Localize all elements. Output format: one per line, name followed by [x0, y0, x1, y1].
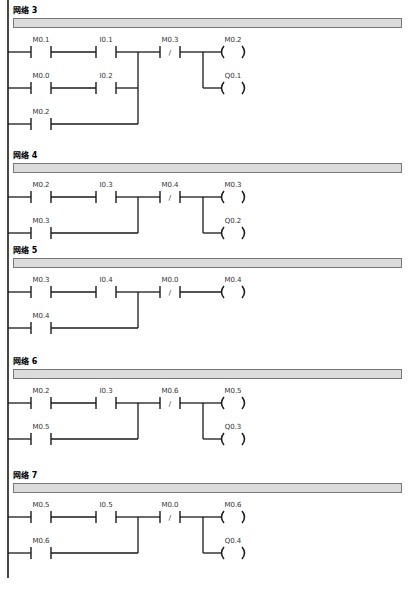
coil-address-label: M0.2 — [224, 36, 241, 44]
coil-address-label: Q0.1 — [225, 72, 242, 80]
contact-address-label: M0.3 — [161, 36, 178, 44]
coil-right-paren — [242, 433, 245, 445]
coil-left-paren — [222, 433, 225, 445]
contact-address-label: M0.6 — [32, 537, 50, 545]
contact-address-label: M0.3 — [32, 217, 49, 225]
coil-address-label: M0.6 — [224, 501, 242, 509]
coil-address-label: Q0.3 — [225, 423, 242, 431]
coil-left-paren — [222, 191, 225, 203]
nc-slash-icon: / — [169, 400, 172, 408]
coil-right-paren — [242, 547, 245, 559]
contact-address-label: I0.2 — [99, 72, 112, 80]
coil-left-paren — [222, 547, 225, 559]
contact-address-label: M0.3 — [32, 276, 49, 284]
coil-left-paren — [222, 227, 225, 239]
coil-left-paren — [222, 397, 225, 409]
contact-address-label: M0.4 — [32, 312, 50, 320]
coil-right-paren — [242, 286, 245, 298]
coil-address-label: Q0.4 — [225, 537, 242, 545]
coil-left-paren — [222, 82, 225, 94]
coil-right-paren — [242, 191, 245, 203]
nc-slash-icon: / — [169, 514, 172, 522]
coil-left-paren — [222, 46, 225, 58]
coil-left-paren — [222, 511, 225, 523]
contact-address-label: I0.3 — [99, 387, 112, 395]
coil-right-paren — [242, 46, 245, 58]
nc-slash-icon: / — [169, 194, 172, 202]
coil-right-paren — [242, 397, 245, 409]
contact-address-label: I0.5 — [99, 501, 112, 509]
coil-right-paren — [242, 82, 245, 94]
coil-address-label: Q0.2 — [225, 217, 242, 225]
contact-address-label: M0.2 — [32, 108, 49, 116]
coil-right-paren — [242, 227, 245, 239]
contact-address-label: M0.4 — [161, 181, 179, 189]
contact-address-label: M0.1 — [32, 36, 49, 44]
ladder-canvas: M0.1I0.1M0.0I0.2M0.2/M0.3M0.2Q0.1M0.2I0.… — [0, 0, 409, 590]
coil-address-label: M0.5 — [224, 387, 241, 395]
nc-slash-icon: / — [169, 289, 172, 297]
contact-address-label: I0.3 — [99, 181, 112, 189]
contact-address-label: I0.1 — [99, 36, 112, 44]
contact-address-label: M0.0 — [161, 501, 178, 509]
coil-address-label: M0.3 — [224, 181, 241, 189]
contact-address-label: M0.0 — [32, 72, 49, 80]
contact-address-label: M0.5 — [32, 501, 49, 509]
contact-address-label: I0.4 — [99, 276, 113, 284]
coil-left-paren — [222, 286, 225, 298]
contact-address-label: M0.0 — [161, 276, 178, 284]
coil-right-paren — [242, 511, 245, 523]
coil-address-label: M0.4 — [224, 276, 242, 284]
contact-address-label: M0.2 — [32, 387, 49, 395]
contact-address-label: M0.5 — [32, 423, 49, 431]
contact-address-label: M0.2 — [32, 181, 49, 189]
nc-slash-icon: / — [169, 49, 172, 57]
contact-address-label: M0.6 — [161, 387, 179, 395]
